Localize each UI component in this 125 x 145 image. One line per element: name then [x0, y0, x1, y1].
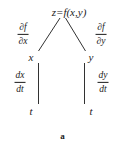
- label-partial-f-partial-x: ∂f ∂x: [18, 22, 29, 46]
- edge-root-to-x: [39, 18, 61, 51]
- node-variable-t-left: t: [29, 106, 32, 117]
- node-variable-t-right: t: [89, 106, 92, 117]
- label-partial-f-partial-y-denominator: ∂y: [96, 35, 107, 46]
- chain-rule-tree-diagram: z=f(x,y) ∂f ∂x ∂f ∂y x y dx dt dy dt t t…: [0, 0, 125, 145]
- label-dx-dt: dx dt: [15, 70, 26, 94]
- label-partial-f-partial-x-denominator: ∂x: [18, 35, 29, 46]
- label-dx-dt-denominator: dt: [15, 83, 26, 94]
- label-dy-dt-denominator: dt: [98, 83, 109, 94]
- node-root-function: z=f(x,y): [52, 7, 87, 18]
- label-partial-f-partial-x-numerator: ∂f: [18, 22, 29, 33]
- node-variable-y: y: [89, 52, 94, 63]
- figure-caption: a: [60, 131, 65, 141]
- label-dx-dt-numerator: dx: [15, 70, 26, 81]
- label-dy-dt: dy dt: [98, 70, 109, 94]
- label-partial-f-partial-y: ∂f ∂y: [96, 22, 107, 46]
- edge-root-to-y: [66, 18, 86, 51]
- label-dy-dt-numerator: dy: [98, 70, 109, 81]
- node-variable-x: x: [29, 52, 34, 63]
- label-partial-f-partial-y-numerator: ∂f: [96, 22, 107, 33]
